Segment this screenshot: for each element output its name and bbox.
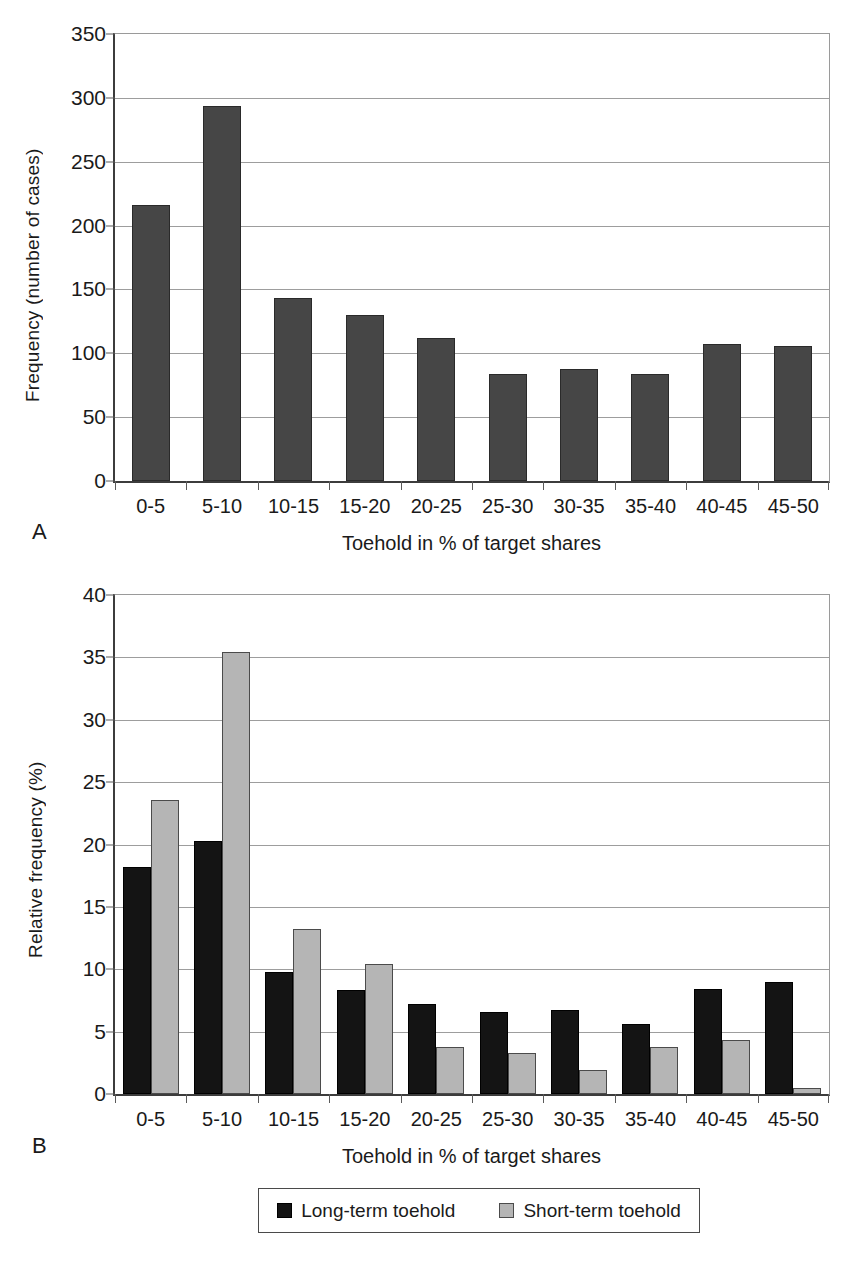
y-tick-mark	[106, 657, 115, 658]
y-tick-label: 50	[83, 405, 106, 429]
y-tick-label: 35	[83, 645, 106, 669]
y-tick-label: 25	[83, 770, 106, 794]
bar	[765, 982, 793, 1094]
y-tick-label: 0	[94, 469, 106, 493]
bar	[774, 346, 812, 481]
bar	[508, 1053, 536, 1094]
bar-group	[543, 595, 614, 1094]
panel-a: Frequency (number of cases) 050100150200…	[0, 0, 866, 560]
bar	[694, 989, 722, 1094]
legend-item: Long-term toehold	[277, 1200, 455, 1222]
x-tick-label: 10-15	[268, 495, 319, 518]
y-tick-mark	[106, 1031, 115, 1032]
y-tick-label: 20	[83, 833, 106, 857]
x-tick-label: 5-10	[202, 1108, 242, 1131]
y-tick-mark	[106, 161, 115, 162]
bar-group	[401, 34, 472, 481]
x-tick-mark	[828, 481, 829, 490]
panel-a-x-axis-title: Toehold in % of target shares	[113, 532, 830, 555]
bar	[123, 867, 151, 1094]
bar-group	[758, 595, 829, 1094]
legend-swatch-icon	[277, 1203, 292, 1218]
x-tick-label: 30-35	[554, 1108, 605, 1131]
figure: Frequency (number of cases) 050100150200…	[0, 0, 866, 1261]
bar	[293, 929, 321, 1094]
bar	[480, 1012, 508, 1094]
bar	[703, 344, 741, 481]
x-tick-label: 45-50	[768, 1108, 819, 1131]
bar	[132, 205, 170, 481]
x-tick-mark	[543, 1094, 544, 1103]
bar-group	[615, 34, 686, 481]
x-tick-mark	[758, 1094, 759, 1103]
x-tick-label: 20-25	[411, 495, 462, 518]
x-tick-mark	[401, 481, 402, 490]
bar	[551, 1010, 579, 1094]
bar-group	[115, 595, 186, 1094]
panel-a-y-axis-title: Frequency (number of cases)	[22, 120, 44, 430]
y-tick-label: 100	[71, 341, 106, 365]
bar	[722, 1040, 750, 1094]
x-tick-mark	[115, 1094, 116, 1103]
bar	[337, 990, 365, 1094]
x-tick-label: 0-5	[136, 495, 165, 518]
bar	[203, 106, 241, 481]
y-tick-mark	[106, 969, 115, 970]
y-tick-mark	[106, 782, 115, 783]
bar-group	[686, 595, 757, 1094]
x-tick-label: 20-25	[411, 1108, 462, 1131]
bar	[408, 1004, 436, 1094]
x-tick-label: 0-5	[136, 1108, 165, 1131]
bar-group	[329, 34, 400, 481]
bar-group	[401, 595, 472, 1094]
bar	[151, 800, 179, 1094]
y-tick-mark	[106, 417, 115, 418]
bar	[793, 1088, 821, 1094]
x-tick-mark	[686, 481, 687, 490]
bar	[650, 1047, 678, 1094]
x-tick-mark	[472, 481, 473, 490]
panel-b-plot-area: 05101520253035400-55-1010-1515-2020-2525…	[113, 594, 830, 1096]
x-tick-mark	[401, 1094, 402, 1103]
y-tick-mark	[106, 289, 115, 290]
y-tick-label: 250	[71, 150, 106, 174]
chart-legend: Long-term toeholdShort-term toehold	[258, 1188, 700, 1233]
x-tick-label: 5-10	[202, 495, 242, 518]
x-tick-label: 25-30	[482, 1108, 533, 1131]
x-tick-label: 25-30	[482, 495, 533, 518]
x-tick-mark	[258, 481, 259, 490]
x-tick-label: 10-15	[268, 1108, 319, 1131]
bar	[631, 374, 669, 481]
x-tick-mark	[329, 481, 330, 490]
x-tick-mark	[758, 481, 759, 490]
x-tick-label: 40-45	[696, 495, 747, 518]
bar-group	[543, 34, 614, 481]
y-tick-label: 300	[71, 86, 106, 110]
x-tick-label: 40-45	[696, 1108, 747, 1131]
y-tick-label: 40	[83, 583, 106, 607]
bar-group	[186, 34, 257, 481]
bar-group	[258, 34, 329, 481]
x-tick-mark	[828, 1094, 829, 1103]
x-tick-label: 30-35	[554, 495, 605, 518]
x-tick-label: 35-40	[625, 1108, 676, 1131]
panel-a-plot-area: 0501001502002503003500-55-1010-1515-2020…	[113, 33, 830, 483]
bar-group	[472, 34, 543, 481]
x-tick-mark	[329, 1094, 330, 1103]
y-tick-mark	[106, 225, 115, 226]
y-tick-label: 350	[71, 22, 106, 46]
legend-label: Long-term toehold	[301, 1200, 455, 1222]
bar	[417, 338, 455, 481]
bar	[489, 374, 527, 481]
y-tick-mark	[106, 353, 115, 354]
bar	[265, 972, 293, 1094]
panel-b-y-axis-title: Relative frequency (%)	[25, 720, 47, 1000]
x-tick-mark	[258, 1094, 259, 1103]
bar-group	[472, 595, 543, 1094]
bar-group	[115, 34, 186, 481]
x-tick-label: 15-20	[339, 495, 390, 518]
y-tick-label: 15	[83, 895, 106, 919]
x-tick-mark	[543, 481, 544, 490]
x-tick-mark	[615, 1094, 616, 1103]
y-tick-mark	[106, 906, 115, 907]
